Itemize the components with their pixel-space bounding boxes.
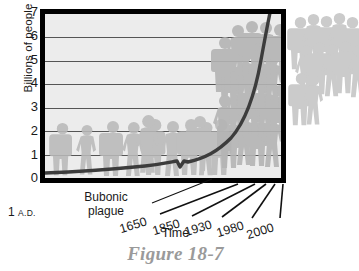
annotation-bubonic-plague-line1: Bubonic [63,190,149,204]
leader-line-1980 [252,184,275,218]
annotation-bubonic-plague: Bubonic plague [63,190,149,218]
x-axis-start-label-small: A.D. [18,208,36,218]
leader-line-bubonic [152,179,212,203]
x-axis-start-label-main: 1 [8,205,15,219]
figure-caption: Figure 18-7 [0,243,351,265]
leader-line-2000 [280,184,283,218]
x-axis-start-label: 1 A.D. [8,205,36,219]
x-axis-title: Time [0,226,351,240]
